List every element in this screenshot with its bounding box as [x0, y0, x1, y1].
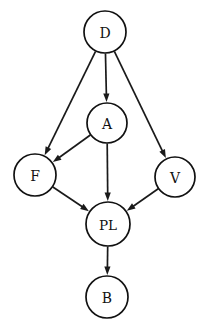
edge-a-to-f [59, 135, 91, 158]
node-label-b: B [102, 290, 112, 306]
edge-a-to-pl [107, 144, 108, 195]
arrowhead-d-to-v [159, 149, 165, 158]
edge-f-to-pl [53, 187, 83, 207]
node-label-f: F [30, 168, 40, 184]
node-f[interactable]: F [14, 154, 56, 196]
dag-graphic: DAFVPLB [0, 0, 211, 334]
node-pl[interactable]: PL [86, 202, 130, 246]
node-v[interactable]: V [155, 157, 195, 197]
arrowhead-d-to-a [103, 93, 109, 102]
arrowhead-pl-to-b [104, 266, 110, 275]
nodes-layer: DAFVPLB [14, 11, 195, 318]
node-b[interactable]: B [86, 276, 128, 318]
diagram-canvas: DAFVPLB [0, 0, 211, 334]
arrowhead-f-to-pl [80, 204, 89, 211]
edge-d-to-a [105, 53, 106, 95]
node-label-pl: PL [99, 217, 117, 233]
node-a[interactable]: A [87, 103, 127, 143]
arrowhead-d-to-f [45, 146, 52, 155]
edge-d-to-f [48, 51, 96, 149]
edge-v-to-pl [133, 189, 159, 207]
node-d[interactable]: D [84, 11, 126, 53]
arrowhead-v-to-pl [127, 203, 136, 210]
node-label-v: V [169, 170, 181, 186]
arrowhead-a-to-pl [105, 192, 111, 201]
node-label-a: A [101, 116, 113, 132]
node-label-d: D [99, 25, 110, 41]
